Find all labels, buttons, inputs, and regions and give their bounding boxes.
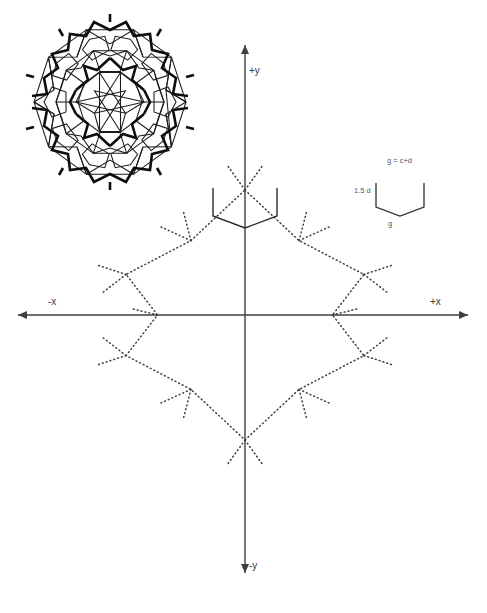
axis-label-negative-y: -y — [249, 560, 257, 571]
girih-thick-lines — [26, 14, 194, 190]
axes-group — [18, 45, 468, 573]
legend-base-label: g — [388, 219, 392, 228]
legend-height-label: 1.5 d — [354, 186, 371, 195]
legend-u-shape — [376, 183, 424, 216]
legend-group — [376, 183, 424, 216]
axis-label-positive-x: +x — [430, 296, 441, 307]
y-axis-arrow-positive — [241, 45, 249, 54]
girih-thin-lines — [34, 30, 186, 175]
x-axis-arrow-positive — [459, 311, 468, 319]
figure-canvas: +y -y +x -x g = c+d 1.5 d g — [0, 0, 487, 613]
x-axis-arrow-negative — [18, 311, 27, 319]
y-axis-arrow-negative — [241, 564, 249, 573]
girih-rosette-pattern — [26, 14, 194, 190]
axis-label-positive-y: +y — [249, 65, 260, 76]
axis-label-negative-x: -x — [48, 296, 56, 307]
legend-formula-label: g = c+d — [387, 156, 412, 165]
diagram-svg: +y -y +x -x g = c+d 1.5 d g — [0, 0, 487, 613]
